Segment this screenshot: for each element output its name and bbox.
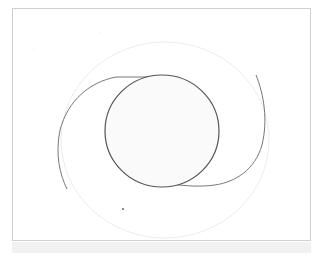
inner-circle — [105, 75, 219, 187]
speck-dot-faint-2 — [99, 32, 100, 33]
speck-dot-faint — [33, 49, 34, 50]
spiral-drawing — [0, 0, 327, 262]
speck-dot — [122, 208, 124, 210]
